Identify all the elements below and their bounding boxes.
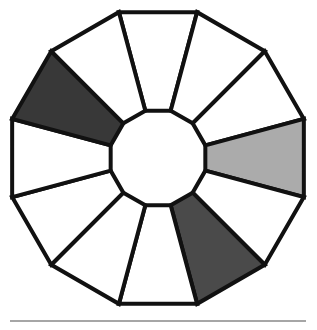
footer-divider [10, 320, 306, 322]
figure-container [0, 0, 317, 330]
segmented-ring-diagram [0, 0, 317, 330]
